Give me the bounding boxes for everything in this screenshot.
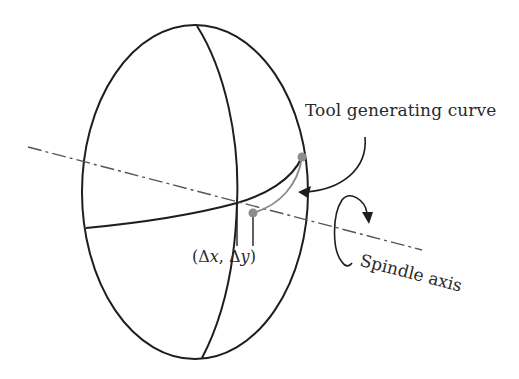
offset-dx-symbol: Δ	[198, 247, 210, 266]
meridian-curve	[197, 26, 237, 358]
tool-curve-end-point	[249, 209, 258, 218]
callout-arrowhead-icon	[298, 186, 311, 198]
ellipsoid-diagram	[0, 0, 519, 379]
offset-separator: ,	[219, 247, 229, 266]
tool-generating-curve-label: Tool generating curve	[305, 100, 496, 120]
offset-close-paren: )	[250, 247, 256, 266]
ellipsoid-outline	[82, 25, 308, 359]
rotation-arrowhead-icon	[362, 212, 373, 224]
offset-dy-variable: y	[241, 247, 250, 266]
equator-curve	[86, 157, 302, 228]
offset-coordinates-label: (Δx, Δy)	[192, 247, 256, 266]
offset-dx-variable: x	[210, 247, 219, 266]
offset-dy-symbol: Δ	[229, 247, 241, 266]
spindle-axis-line	[28, 147, 422, 250]
tool-curve-start-point	[298, 153, 307, 162]
callout-arrow-line	[305, 137, 365, 192]
